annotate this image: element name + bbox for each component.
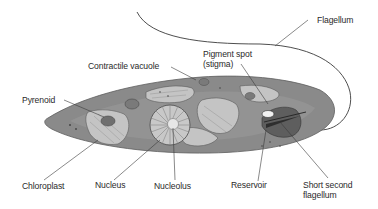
label-nucleolus: Nucleolus bbox=[154, 181, 191, 191]
label-short-second-flagellum: Short second flagellum bbox=[303, 180, 352, 200]
label-pyrenoid: Pyrenoid bbox=[22, 95, 55, 105]
euglena-diagram: Flagellum Pigment spot (stigma) Contract… bbox=[0, 0, 378, 209]
pigment-spot bbox=[262, 111, 274, 118]
label-chloroplast: Chloroplast bbox=[22, 181, 64, 191]
euglena-illustration bbox=[0, 0, 378, 209]
pyrenoid bbox=[101, 116, 115, 126]
contractile-vacuole bbox=[125, 99, 139, 109]
label-flagellum: Flagellum bbox=[317, 15, 353, 25]
label-pigment-spot: Pigment spot (stigma) bbox=[203, 49, 252, 69]
label-contractile-vacuole: Contractile vacuole bbox=[88, 61, 159, 71]
label-reservoir: Reservoir bbox=[231, 180, 267, 190]
nucleolus bbox=[168, 119, 179, 130]
label-nucleus: Nucleus bbox=[95, 180, 125, 190]
